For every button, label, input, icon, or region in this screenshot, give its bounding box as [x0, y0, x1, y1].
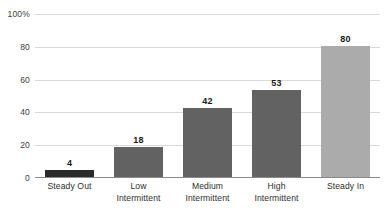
x-axis-line — [35, 177, 380, 178]
category-label-medium-intermittent: Medium Intermittent — [173, 180, 242, 204]
category-line-2: Intermittent — [106, 192, 171, 204]
bar-series: 4 18 42 53 80 — [35, 14, 380, 177]
bar-slot: 80 — [311, 14, 380, 177]
category-line-1: Steady In — [327, 181, 364, 191]
bar-value-label: 42 — [202, 96, 212, 106]
y-tick-label: 0 — [0, 173, 30, 183]
bar-steady-out[interactable]: 4 — [45, 170, 95, 177]
y-tick-label: 100% — [0, 9, 30, 19]
category-line-1: Steady Out — [48, 181, 92, 191]
bar-value-label: 18 — [133, 135, 143, 145]
bar-slot: 18 — [104, 14, 173, 177]
bar-low-intermittent[interactable]: 18 — [114, 147, 164, 177]
bar-medium-intermittent[interactable]: 42 — [183, 108, 233, 177]
category-label-high-intermittent: High Intermittent — [242, 180, 311, 204]
category-line-2: Intermittent — [244, 192, 309, 204]
bar-value-label: 80 — [340, 34, 350, 44]
category-line-1: High — [267, 181, 285, 191]
bar-slot: 4 — [35, 14, 104, 177]
y-tick-label: 80 — [0, 42, 30, 52]
bar-high-intermittent[interactable]: 53 — [252, 90, 302, 177]
bar-value-label: 53 — [271, 78, 281, 88]
category-line-1: Low — [130, 181, 146, 191]
bar-slot: 53 — [242, 14, 311, 177]
plot-area: 4 18 42 53 80 — [35, 14, 380, 178]
category-line-1: Medium — [192, 181, 223, 191]
bar-value-label: 4 — [67, 158, 72, 168]
category-line-2: Intermittent — [175, 192, 240, 204]
bar-slot: 42 — [173, 14, 242, 177]
bar-chart: 100% 80 60 40 20 0 4 18 — [0, 0, 387, 214]
category-label-steady-out: Steady Out — [35, 180, 104, 204]
y-tick-label: 20 — [0, 140, 30, 150]
category-label-steady-in: Steady In — [311, 180, 380, 204]
x-axis-categories: Steady Out Low Intermittent Medium Inter… — [35, 180, 380, 204]
y-tick-label: 60 — [0, 75, 30, 85]
category-label-low-intermittent: Low Intermittent — [104, 180, 173, 204]
bar-steady-in[interactable]: 80 — [321, 46, 371, 177]
y-tick-label: 40 — [0, 107, 30, 117]
